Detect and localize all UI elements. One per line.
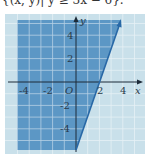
y-tick-label: 4	[67, 30, 73, 41]
y-tick-label: -4	[60, 123, 70, 134]
x-tick-label: 2	[97, 85, 103, 96]
y-axis-label: y	[79, 15, 86, 26]
y-tick-label: -2	[60, 100, 70, 111]
x-tick-label: -2	[43, 85, 53, 96]
x-tick-label: -4	[19, 85, 29, 96]
origin-label: O	[65, 85, 73, 96]
x-tick-label: 4	[120, 85, 126, 96]
inequality-graph: y x O -4 -2 2 4 4 2 -2 -4	[0, 0, 153, 158]
y-tick-label: 2	[67, 53, 73, 64]
x-axis-label: x	[135, 85, 141, 96]
